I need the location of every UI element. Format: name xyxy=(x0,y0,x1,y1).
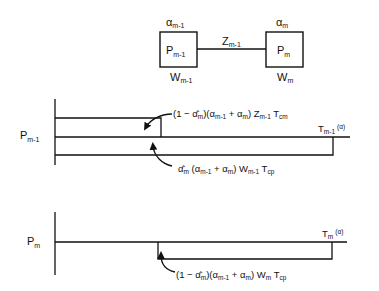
end-time-lower: Tm(α) xyxy=(322,228,343,240)
arrow-comm-upper xyxy=(146,114,172,127)
annotation-comp-upper: α̂m (αm-1 + αm) Wm-1 Tcp xyxy=(178,163,275,176)
network-diagram: Pm-1 Pm αm-1 αm Wm-1 Wm Zm-1 xyxy=(160,16,303,84)
end-time-upper: Tm-1(α) xyxy=(318,123,345,135)
comp-block-lower xyxy=(158,242,332,259)
arrow-comp-upper xyxy=(153,146,172,166)
comp-block-upper xyxy=(55,137,333,155)
node-box-right xyxy=(266,32,303,67)
timeline-lower: Pm Tm(α) (1 − α̂m)(αm-1 + αm) Wm Tcp xyxy=(27,212,347,282)
axis-label-upper: Pm-1 xyxy=(20,129,40,143)
node-right-alpha: αm xyxy=(276,16,288,29)
arrow-comp-lower xyxy=(161,255,175,272)
axis-label-lower: Pm xyxy=(27,235,40,249)
annotation-comp-lower: (1 − α̂m)(αm-1 + αm) Wm Tcp xyxy=(176,269,287,282)
comm-block-upper xyxy=(55,118,161,137)
node-left-weight: Wm-1 xyxy=(170,71,193,84)
node-left-alpha: αm-1 xyxy=(166,16,185,29)
link-label: Zm-1 xyxy=(222,35,241,48)
annotation-comm-upper: (1 − α̂m)(αm-1 + αm) Zm-1 Tcm xyxy=(173,108,288,120)
node-right-weight: Wm xyxy=(277,71,293,84)
diagram-canvas: Pm-1 Pm αm-1 αm Wm-1 Wm Zm-1 Pm-1 Tm-1(α… xyxy=(0,0,379,291)
timeline-upper: Pm-1 Tm-1(α) (1 − α̂m)(αm-1 + αm) Zm-1 T… xyxy=(20,99,350,176)
